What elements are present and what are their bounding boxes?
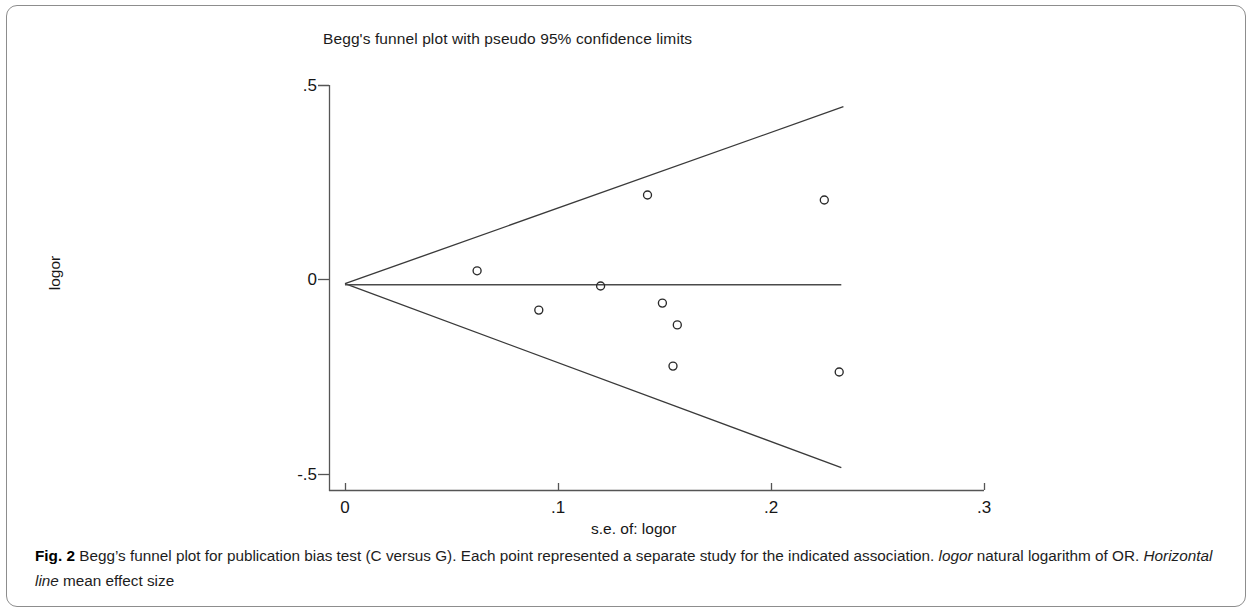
funnel-plot: Begg's funnel plot with pseudo 95% confi… [7, 6, 1246, 531]
data-point [673, 321, 681, 329]
data-point [669, 362, 677, 370]
data-point [820, 196, 828, 204]
data-point [644, 191, 652, 199]
caption-text-3: mean effect size [59, 572, 174, 589]
figure-caption: Fig. 2 Begg’s funnel plot for publicatio… [35, 543, 1225, 593]
data-point [835, 368, 843, 376]
data-point [658, 299, 666, 307]
data-point [535, 306, 543, 314]
pseudo-95-lower-limit-line [345, 284, 841, 468]
caption-italic-logor: logor [939, 547, 973, 564]
data-point [473, 267, 481, 275]
plot-canvas [7, 6, 1246, 531]
caption-text-2: natural logarithm of OR. [973, 547, 1144, 564]
figure-frame: Begg's funnel plot with pseudo 95% confi… [6, 5, 1246, 607]
pseudo-95-upper-limit-line [345, 107, 843, 284]
figure-number: Fig. 2 [35, 547, 75, 564]
reference-lines [345, 107, 843, 468]
data-point [597, 282, 605, 290]
caption-text-1: Begg’s funnel plot for publication bias … [75, 547, 939, 564]
axis-lines [318, 85, 985, 491]
